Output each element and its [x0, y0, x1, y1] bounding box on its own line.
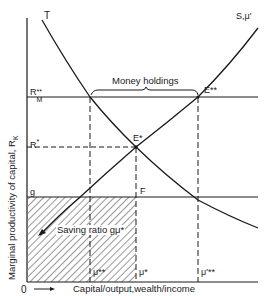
y-axis-label: Marginal productivity of capital, RK: [6, 135, 19, 280]
rm-tick-sub: M: [37, 96, 43, 103]
r-star-tick-sup: *: [37, 138, 40, 145]
mu-ss-tick-label: μ**: [93, 268, 105, 277]
saving-ratio-label: Saving ratio gμ*: [56, 225, 125, 235]
rm-tick-sup: **: [37, 88, 42, 95]
rm-tick-label: R**M: [30, 88, 45, 97]
mu-prime-ss-tick-label: μ'**: [201, 268, 215, 277]
money-holdings-bracket: [91, 87, 198, 95]
g-tick-label: g: [30, 188, 35, 197]
r-star-tick-label: R*: [30, 138, 39, 150]
s-curve-label: S,μ': [236, 12, 251, 21]
y-axis-label-subscript: K: [12, 135, 19, 140]
saving-ratio-area: [28, 197, 136, 282]
money-holdings-label: Money holdings: [112, 76, 179, 86]
e-ss-point: [197, 96, 200, 99]
x-axis-arrowhead: [50, 287, 55, 291]
origin-label: 0: [21, 285, 27, 295]
e-ss-label: E**: [204, 86, 217, 95]
s-curve: [40, 28, 258, 235]
x-axis-label: Capital/output,wealth/income: [73, 284, 195, 294]
diagram-canvas: [0, 0, 273, 296]
y-axis-label-text: Marginal productivity of capital, R: [6, 140, 17, 280]
e-star-point: [134, 145, 138, 149]
t-curve-label: T: [44, 11, 50, 21]
mu-s-tick-label: μ*: [139, 268, 148, 277]
f-label: F: [140, 187, 146, 196]
e-star-label: E*: [133, 134, 143, 143]
